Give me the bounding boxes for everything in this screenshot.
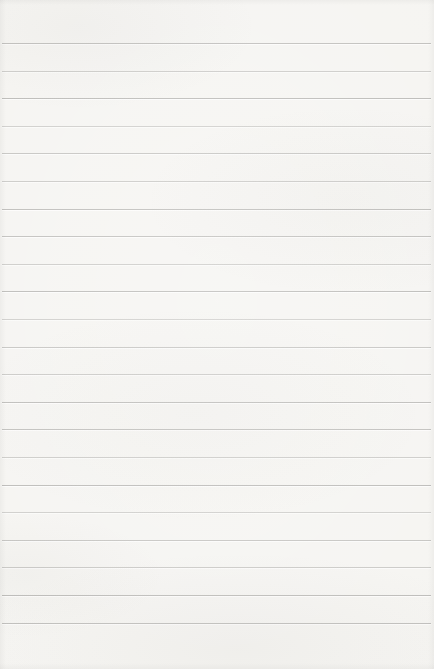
ruled-line — [2, 540, 431, 541]
ruled-lines — [0, 0, 434, 669]
ruled-line — [2, 236, 431, 237]
ruled-line — [2, 126, 431, 127]
ruled-line — [2, 512, 431, 513]
ruled-line — [2, 319, 431, 320]
ruled-line — [2, 402, 431, 403]
ruled-line — [2, 264, 431, 265]
ruled-line — [2, 181, 431, 182]
ruled-line — [2, 71, 431, 72]
ruled-line — [2, 209, 431, 210]
ruled-line — [2, 457, 431, 458]
ruled-line — [2, 623, 431, 624]
ruled-line — [2, 347, 431, 348]
ruled-line — [2, 429, 431, 430]
ruled-line — [2, 595, 431, 596]
ruled-line — [2, 98, 431, 99]
notebook-page — [0, 0, 434, 669]
ruled-line — [2, 43, 431, 44]
ruled-line — [2, 374, 431, 375]
ruled-line — [2, 153, 431, 154]
ruled-line — [2, 291, 431, 292]
ruled-line — [2, 485, 431, 486]
ruled-line — [2, 567, 431, 568]
